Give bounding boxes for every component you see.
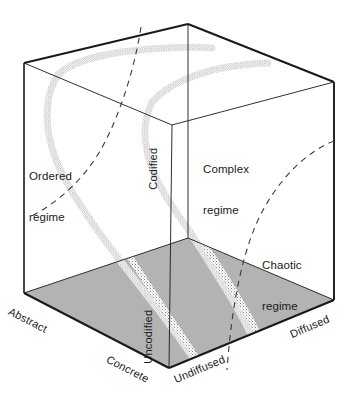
axis-label-uncodified: Uncodified — [142, 310, 156, 364]
region-label-complex-line2: regime — [203, 204, 249, 218]
region-label-ordered-line2: regime — [29, 211, 72, 225]
region-label-chaotic-line2: regime — [262, 300, 302, 314]
region-label-ordered-line1: Ordered — [29, 170, 72, 184]
region-label-chaotic-line1: Chaotic — [262, 259, 302, 273]
region-label-complex-line1: Complex — [203, 163, 249, 177]
cube-edge-top-front-right — [172, 82, 334, 125]
region-label-chaotic: Chaotic regime — [262, 232, 302, 340]
region-label-ordered: Ordered regime — [29, 143, 72, 251]
region-label-complex: Complex regime — [203, 136, 249, 244]
stipple-band-complex-chaotic-top — [152, 63, 268, 102]
axis-label-codified: Codified — [147, 148, 161, 190]
diagram-canvas: Ordered regime Complex regime Chaotic re… — [0, 0, 355, 414]
stipple-band-ordered-complex — [58, 47, 212, 75]
